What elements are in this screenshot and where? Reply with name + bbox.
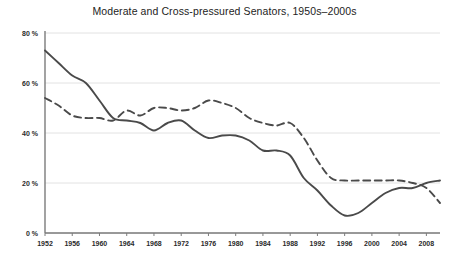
y-axis-labels: 0 %20 %40 %60 %80 % — [22, 30, 39, 237]
chart-container: Moderate and Cross-pressured Senators, 1… — [0, 0, 449, 260]
series-line-dashed — [45, 98, 440, 203]
x-tick-label: 2004 — [391, 240, 407, 247]
x-tick-label: 1996 — [337, 240, 353, 247]
x-tick-label: 1988 — [282, 240, 298, 247]
x-tick-label: 2008 — [419, 240, 435, 247]
y-tick-label: 40 % — [22, 130, 39, 137]
y-tick-label: 20 % — [22, 180, 39, 187]
x-tick-label: 1976 — [201, 240, 217, 247]
x-tick-label: 1956 — [64, 240, 80, 247]
x-tick-label: 1992 — [310, 240, 326, 247]
x-tick-label: 1972 — [173, 240, 189, 247]
y-tick-label: 80 % — [22, 30, 39, 37]
x-tick-label: 1960 — [92, 240, 108, 247]
x-tick-label: 1968 — [146, 240, 162, 247]
x-tick-label: 1980 — [228, 240, 244, 247]
y-tick-label: 60 % — [22, 80, 39, 87]
x-tick-label: 1952 — [37, 240, 53, 247]
line-chart-plot: 0 %20 %40 %60 %80 % 19521956196019641968… — [0, 0, 449, 260]
y-tick-label: 0 % — [26, 230, 39, 237]
gridlines — [45, 33, 440, 233]
x-axis-labels: 1952195619601964196819721976198019841988… — [37, 240, 434, 247]
x-tick-label: 2000 — [364, 240, 380, 247]
x-tick-label: 1964 — [119, 240, 135, 247]
x-tick-label: 1984 — [255, 240, 271, 247]
